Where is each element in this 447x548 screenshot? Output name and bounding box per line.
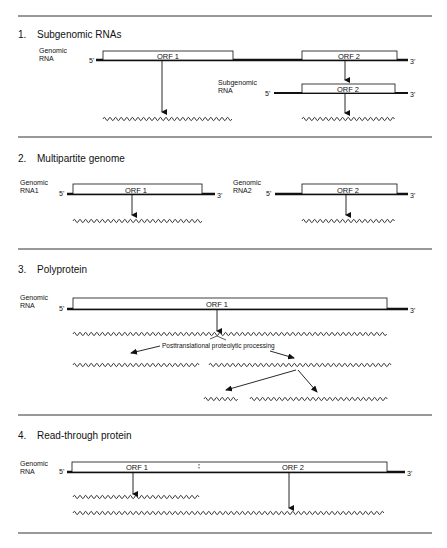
five-prime-label: 5' <box>59 190 64 197</box>
arrow <box>226 370 296 390</box>
three-prime-label: 3' <box>410 91 415 98</box>
five-prime-label: 5' <box>59 468 64 475</box>
arrow <box>298 370 317 392</box>
section-subgenomic-rnas: 1. Subgenomic RNAs Genomic RNA 5' 3' ORF… <box>18 29 415 121</box>
five-prime-label: 5' <box>59 305 64 312</box>
genomic-rna1-label: RNA1 <box>20 187 39 194</box>
cleaved-protein <box>250 397 387 400</box>
subgenomic-rna-label: Subgenomic <box>218 79 257 87</box>
section-number: 1. <box>18 29 26 40</box>
section-title: Multipartite genome <box>37 153 125 164</box>
section-title: Subgenomic RNAs <box>37 29 121 40</box>
orf2-label: ORF 2 <box>337 85 359 94</box>
protein-product <box>302 117 394 120</box>
genomic-rna-label: Genomic <box>39 47 68 54</box>
genomic-rna1-label: Genomic <box>20 179 49 186</box>
orf1-label: ORF 1 <box>206 300 228 309</box>
three-prime-label: 3' <box>407 470 412 477</box>
three-prime-label: 3' <box>217 192 222 199</box>
genome-strategy-diagram: 1. Subgenomic RNAs Genomic RNA 5' 3' ORF… <box>0 0 447 548</box>
genomic-rna2-label: RNA2 <box>233 187 252 194</box>
section-title: Read-through protein <box>37 430 132 441</box>
orf1-protein <box>73 495 199 498</box>
genomic-rna-label: RNA <box>20 468 35 475</box>
three-prime-label: 3' <box>410 58 415 65</box>
three-prime-label: 3' <box>410 307 415 314</box>
orf1-box <box>73 298 387 309</box>
genomic-rna-label: Genomic <box>20 294 49 301</box>
five-prime-label: 5' <box>89 57 94 64</box>
cleaved-protein <box>204 397 238 400</box>
cleaved-protein <box>209 363 391 366</box>
five-prime-label: 5' <box>266 190 271 197</box>
section-title: Polyprotein <box>37 264 87 275</box>
orf2-label: ORF 2 <box>338 52 360 61</box>
genomic-rna-label: RNA <box>20 302 35 309</box>
cleaved-protein <box>73 363 199 366</box>
section-number: 3. <box>18 264 26 275</box>
orf1-label: ORF 1 <box>126 463 148 472</box>
genomic-rna-label: Genomic <box>20 460 49 467</box>
arrow <box>131 346 160 353</box>
orf2-label: ORF 2 <box>337 186 359 195</box>
section-read-through-protein: 4. Read-through protein Genomic RNA 5' 3… <box>18 430 412 515</box>
five-prime-label: 5' <box>265 90 270 97</box>
genomic-rna2-label: Genomic <box>233 179 262 186</box>
subgenomic-rna-label: RNA <box>218 87 233 94</box>
section-polyprotein: 3. Polyprotein Genomic RNA 5' 3' ORF 1 P… <box>18 264 415 401</box>
section-multipartite-genome: 2. Multipartite genome Genomic RNA1 5' 3… <box>18 153 415 223</box>
orf1-label: ORF 1 <box>125 186 147 195</box>
protein-product <box>302 219 394 222</box>
orf-box <box>72 462 387 472</box>
cleavage-tick <box>210 336 217 339</box>
cleavage-tick <box>217 336 226 340</box>
section-number: 4. <box>18 430 26 441</box>
arrow <box>270 351 294 358</box>
polyprotein-product <box>73 332 387 335</box>
read-through-protein <box>73 511 384 514</box>
orf1-label: ORF 1 <box>157 52 179 61</box>
protein-product <box>73 219 202 222</box>
processing-label: Posttranslational proteolytic processing <box>162 342 275 350</box>
three-prime-label: 3' <box>410 192 415 199</box>
genomic-rna-label: RNA <box>39 55 54 62</box>
protein-product <box>103 117 232 120</box>
orf2-label: ORF 2 <box>282 463 304 472</box>
section-number: 2. <box>18 153 26 164</box>
